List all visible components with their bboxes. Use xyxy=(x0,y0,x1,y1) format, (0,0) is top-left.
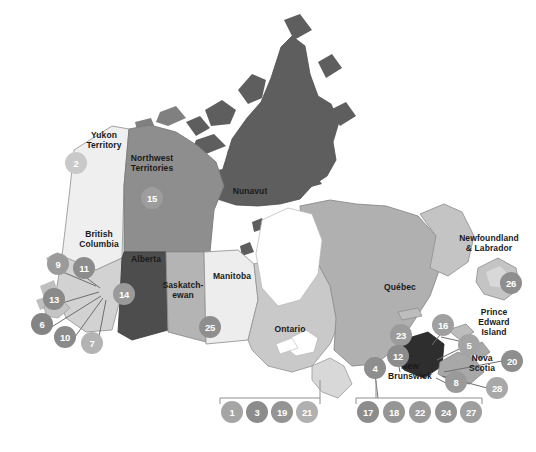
map-marker-7[interactable]: 7 xyxy=(81,332,103,354)
map-marker-11[interactable]: 11 xyxy=(73,257,95,279)
legend-marker-19[interactable]: 19 xyxy=(271,401,293,423)
arctic-island-d xyxy=(156,106,186,126)
map-marker-8[interactable]: 8 xyxy=(445,371,467,393)
legend-marker-21[interactable]: 21 xyxy=(296,401,318,423)
map-marker-9[interactable]: 9 xyxy=(47,253,69,275)
map-marker-5[interactable]: 5 xyxy=(458,334,480,356)
arctic-island-r xyxy=(318,54,342,78)
map-marker-12[interactable]: 12 xyxy=(387,345,409,367)
map-marker-26[interactable]: 26 xyxy=(500,272,522,294)
legend-marker-17[interactable]: 17 xyxy=(357,401,379,423)
arctic-island-c xyxy=(186,116,210,136)
leader-line-9 xyxy=(441,337,459,341)
legend-marker-1[interactable]: 1 xyxy=(221,401,243,423)
legend-marker-27[interactable]: 27 xyxy=(460,401,482,423)
legend-marker-3[interactable]: 3 xyxy=(246,401,268,423)
arctic-island-b xyxy=(205,100,236,126)
map-marker-2[interactable]: 2 xyxy=(65,152,87,174)
map-marker-10[interactable]: 10 xyxy=(54,326,76,348)
map-marker-23[interactable]: 23 xyxy=(390,324,412,346)
map-canvas: Yukon TerritoryNorthwest TerritoriesNuna… xyxy=(0,0,536,452)
map-marker-4[interactable]: 4 xyxy=(364,357,386,379)
legend-marker-22[interactable]: 22 xyxy=(409,401,431,423)
map-marker-25[interactable]: 25 xyxy=(199,316,221,338)
map-marker-13[interactable]: 13 xyxy=(43,288,65,310)
legend-marker-18[interactable]: 18 xyxy=(383,401,405,423)
map-marker-15[interactable]: 15 xyxy=(141,187,163,209)
southern-ontario-peninsula xyxy=(312,358,352,398)
map-marker-20[interactable]: 20 xyxy=(501,350,523,372)
map-marker-6[interactable]: 6 xyxy=(31,313,53,335)
map-marker-16[interactable]: 16 xyxy=(432,314,454,336)
arctic-island-s xyxy=(284,14,312,40)
province-shape-yukon xyxy=(62,126,129,270)
map-marker-14[interactable]: 14 xyxy=(113,283,135,305)
legend-marker-24[interactable]: 24 xyxy=(435,401,457,423)
map-marker-28[interactable]: 28 xyxy=(486,377,508,399)
